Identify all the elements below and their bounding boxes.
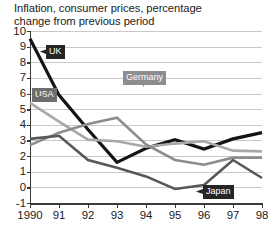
series-callout-japan: Japan	[203, 185, 234, 199]
y-tick-label: 8	[0, 57, 26, 68]
x-tick-label: 92	[82, 209, 95, 221]
y-tick-label: 1	[0, 166, 26, 177]
y-tick-label: 3	[0, 135, 26, 146]
series-callout-uk: UK	[46, 45, 65, 59]
y-tick-label: -1	[0, 198, 26, 209]
chart-title: Inflation, consumer prices, percentage c…	[14, 2, 264, 28]
x-tick-label: 95	[169, 209, 182, 221]
x-tick-label: 93	[111, 209, 124, 221]
x-tick-mark	[262, 203, 263, 208]
y-tick-label: 0	[0, 182, 26, 193]
x-tick-mark	[146, 203, 147, 208]
x-tick-mark	[59, 203, 60, 208]
x-tick-label: 91	[53, 209, 66, 221]
x-tick-label: 98	[256, 209, 269, 221]
x-tick-mark	[233, 203, 234, 208]
series-callout-usa: USA	[32, 88, 57, 102]
x-tick-label: 96	[198, 209, 211, 221]
x-tick-label: 1990	[17, 209, 42, 221]
y-tick-label: 6	[0, 88, 26, 99]
x-tick-label: 94	[140, 209, 153, 221]
y-tick-label: 2	[0, 151, 26, 162]
inflation-line-chart: Inflation, consumer prices, percentage c…	[0, 0, 271, 238]
series-callout-germany: Germany	[123, 71, 166, 85]
y-tick-label: 7	[0, 72, 26, 83]
x-tick-mark	[30, 203, 31, 208]
y-tick-label: 4	[0, 119, 26, 130]
x-tick-mark	[175, 203, 176, 208]
y-tick-label: 10	[0, 26, 26, 37]
x-tick-mark	[204, 203, 205, 208]
series-lines	[30, 31, 262, 203]
x-tick-label: 97	[227, 209, 240, 221]
x-tick-mark	[117, 203, 118, 208]
x-tick-mark	[88, 203, 89, 208]
y-tick-label: 5	[0, 104, 26, 115]
y-tick-label: 9	[0, 41, 26, 52]
